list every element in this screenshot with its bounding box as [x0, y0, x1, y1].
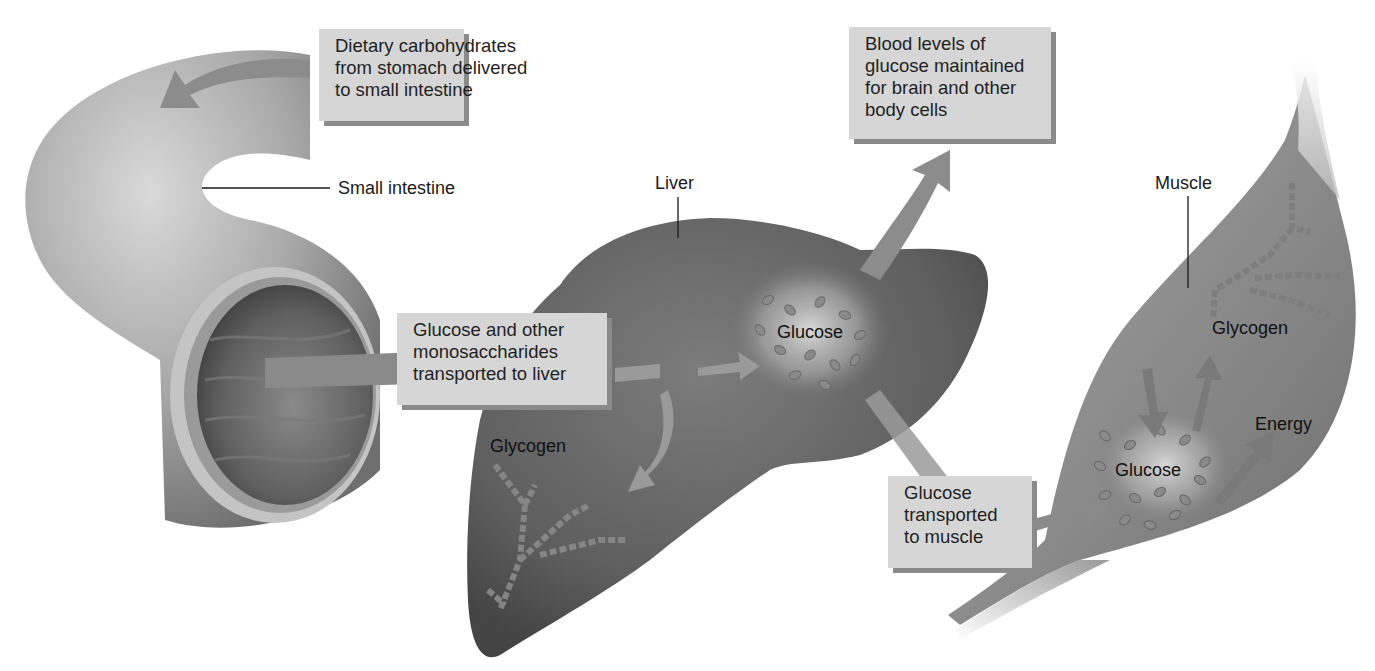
- callout-line: monosaccharides: [413, 341, 595, 363]
- label-liver-glucose: Glucose: [777, 322, 843, 342]
- callout-line: Dietary carbohydrates: [335, 35, 452, 57]
- callout-line: Glucose and other: [413, 319, 595, 341]
- callout-line: from stomach delivered: [335, 57, 452, 79]
- callout-line: for brain and other: [865, 77, 1039, 99]
- callout-line: glucose maintained: [865, 55, 1039, 77]
- label-muscle-energy: Energy: [1255, 414, 1312, 434]
- callout-line: body cells: [865, 99, 1039, 121]
- label-liver-glycogen: Glycogen: [490, 436, 566, 456]
- liver-illustration: [467, 197, 988, 657]
- label-liver: Liver: [655, 173, 694, 193]
- callout-line: transported: [904, 504, 1020, 526]
- small-intestine-illustration: [25, 50, 380, 528]
- callout-blood-glucose: Blood levels of glucose maintained for b…: [849, 27, 1051, 139]
- callout-line: to muscle: [904, 526, 1020, 548]
- callout-line: transported to liver: [413, 363, 595, 385]
- callout-transport-to-muscle: Glucose transported to muscle: [888, 476, 1032, 568]
- diagram-canvas: [0, 0, 1375, 671]
- label-muscle: Muscle: [1155, 173, 1212, 193]
- callout-line: to small intestine: [335, 79, 452, 101]
- label-small-intestine: Small intestine: [338, 178, 455, 198]
- callout-line: Glucose: [904, 482, 1020, 504]
- callout-dietary-carbohydrates: Dietary carbohydrates from stomach deliv…: [319, 29, 464, 121]
- label-muscle-glucose: Glucose: [1115, 460, 1181, 480]
- callout-line: Blood levels of: [865, 33, 1039, 55]
- callout-transport-to-liver: Glucose and other monosaccharides transp…: [397, 313, 607, 405]
- label-muscle-glycogen: Glycogen: [1212, 318, 1288, 338]
